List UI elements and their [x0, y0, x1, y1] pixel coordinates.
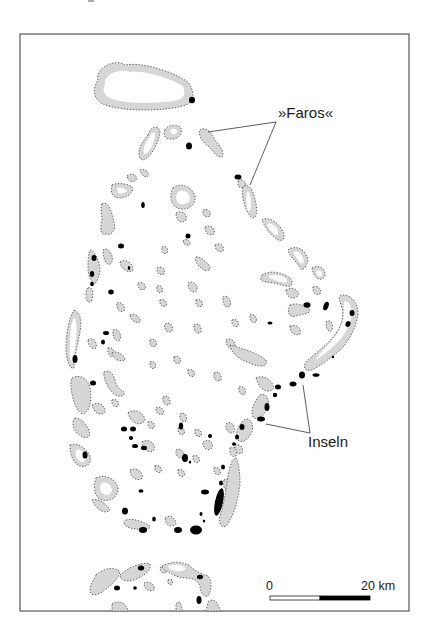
reef	[112, 352, 125, 361]
island	[190, 526, 202, 535]
reef	[160, 299, 167, 306]
island	[129, 436, 133, 440]
reef	[104, 371, 125, 396]
reef	[88, 339, 96, 349]
reef	[178, 469, 185, 476]
reef	[193, 455, 200, 462]
island	[122, 508, 128, 515]
reef	[326, 321, 333, 332]
reef	[92, 403, 105, 414]
reef	[214, 372, 221, 381]
reef	[156, 407, 164, 414]
island	[201, 490, 209, 495]
reef	[250, 315, 257, 323]
island	[265, 403, 270, 411]
reef	[117, 303, 125, 312]
reef	[168, 579, 173, 585]
reef	[86, 288, 93, 302]
inseln-leader-line	[266, 424, 310, 433]
reef	[203, 209, 211, 216]
island	[290, 382, 297, 387]
island	[332, 356, 334, 358]
reef	[144, 582, 154, 591]
island	[322, 301, 330, 311]
reef	[128, 411, 145, 424]
island	[139, 489, 144, 493]
reef	[188, 282, 197, 292]
island	[221, 465, 225, 470]
island	[118, 244, 124, 249]
inseln-leader-line	[303, 385, 310, 433]
reef	[194, 324, 201, 333]
inseln-label: Inseln	[308, 433, 348, 450]
island	[197, 596, 202, 604]
island	[83, 452, 88, 459]
reef	[226, 423, 235, 433]
reef	[157, 285, 163, 292]
island	[235, 435, 239, 440]
island	[133, 586, 137, 590]
reef	[150, 339, 157, 347]
faros-leader-line	[250, 122, 276, 185]
island	[139, 527, 147, 533]
scale-bar-white-segment	[270, 596, 320, 600]
island	[208, 434, 212, 438]
island	[273, 393, 277, 397]
reef	[196, 299, 203, 306]
reef	[157, 267, 165, 275]
reef	[92, 500, 110, 512]
island	[92, 255, 97, 261]
reef	[127, 174, 136, 181]
island	[203, 520, 205, 523]
faros-leader-line	[208, 122, 276, 132]
reef	[73, 418, 90, 438]
reef	[313, 286, 321, 294]
island	[138, 566, 144, 571]
reef	[206, 600, 220, 611]
island	[141, 202, 145, 208]
reef	[176, 212, 186, 222]
reef	[236, 419, 252, 442]
island-layer	[73, 97, 355, 604]
island	[189, 461, 191, 464]
reef	[162, 246, 168, 253]
reef	[165, 516, 176, 526]
island	[130, 427, 136, 432]
reef	[290, 325, 300, 334]
reef	[148, 421, 155, 428]
scale-start-label: 0	[266, 579, 273, 593]
island	[235, 175, 242, 180]
reef	[124, 519, 150, 529]
island	[313, 373, 320, 377]
reef	[71, 376, 91, 414]
reef	[203, 440, 213, 449]
reef	[286, 288, 298, 298]
reef	[130, 314, 140, 322]
reef	[150, 361, 156, 368]
reef	[232, 319, 239, 326]
reef	[214, 467, 221, 474]
reef	[112, 602, 128, 611]
reef	[256, 377, 274, 391]
reef	[239, 387, 246, 395]
island	[197, 575, 203, 579]
reef	[188, 369, 195, 376]
island	[132, 444, 138, 448]
reef	[176, 602, 182, 611]
island	[275, 385, 281, 390]
reef	[155, 465, 162, 472]
island	[152, 517, 156, 522]
scale-bar: 0 20 km	[266, 579, 395, 600]
island	[182, 454, 188, 462]
scale-end-label: 20 km	[361, 579, 395, 593]
island	[186, 143, 192, 150]
island	[174, 527, 182, 533]
island	[90, 282, 94, 286]
island	[90, 381, 96, 386]
reef	[230, 345, 266, 366]
island	[257, 417, 265, 422]
faros-label: »Faros«	[278, 104, 333, 121]
island	[304, 302, 311, 308]
reef	[101, 203, 115, 234]
reef	[174, 356, 181, 363]
